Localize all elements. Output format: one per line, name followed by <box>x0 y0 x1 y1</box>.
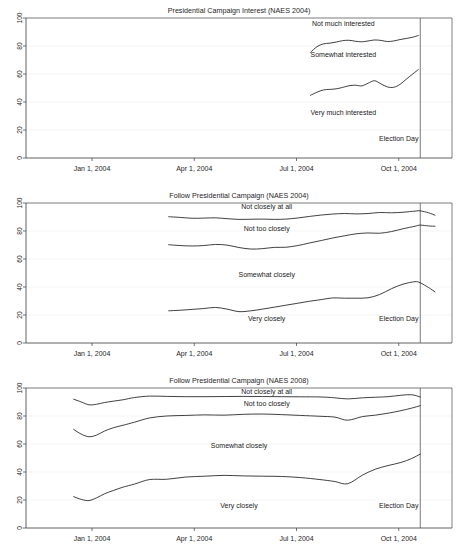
series-line-very-closely <box>74 454 421 501</box>
annotation-not-much-interested: Not much interested <box>312 20 375 27</box>
series-line-not-much-interested <box>311 36 419 53</box>
x-tick-label: Apr 1, 2004 <box>176 350 212 358</box>
annotation-not-too-closely: Not too closely <box>244 225 290 233</box>
y-tick-label: 20 <box>16 311 23 319</box>
chart-panel-3: Follow Presidential Campaign (NAES 2008)… <box>0 370 467 555</box>
annotation-not-too-closely: Not too closely <box>244 400 290 408</box>
annotation-not-closely-at-all: Not closely at all <box>241 203 292 211</box>
y-tick-label: 40 <box>16 283 23 291</box>
y-tick-label: 40 <box>16 468 23 476</box>
annotation-somewhat-closely: Somewhat closely <box>211 442 268 450</box>
y-tick-label: 20 <box>16 496 23 504</box>
annotation-somewhat-interested: Somewhat interested <box>310 51 376 58</box>
annotation-very-closely: Very closely <box>220 502 258 510</box>
panel-title: Presidential Campaign Interest (NAES 200… <box>168 6 311 15</box>
y-tick-label: 100 <box>16 382 23 393</box>
annotation-election-day: Election Day <box>379 135 419 143</box>
y-tick-label: 100 <box>16 197 23 208</box>
y-tick-label: 0 <box>16 341 23 345</box>
annotation-election-day: Election Day <box>379 502 419 510</box>
x-tick-label: Apr 1, 2004 <box>176 165 212 173</box>
x-tick-label: Jul 1, 2004 <box>279 350 313 357</box>
y-tick-label: 60 <box>16 440 23 448</box>
annotation-election-day: Election Day <box>379 315 419 323</box>
x-tick-label: Oct 1, 2004 <box>381 535 417 542</box>
y-tick-label: 80 <box>16 227 23 235</box>
x-tick-label: Apr 1, 2004 <box>176 535 212 543</box>
series-line-somewhat-interested <box>311 70 419 96</box>
panel-title: Follow Presidential Campaign (NAES 2004) <box>169 191 308 200</box>
chart-panel-1: Presidential Campaign Interest (NAES 200… <box>0 0 467 185</box>
annotation-very-much-interested: Very much interested <box>310 109 376 117</box>
x-tick-label: Oct 1, 2004 <box>381 350 417 357</box>
x-tick-label: Jan 1, 2004 <box>74 350 111 357</box>
x-tick-label: Jan 1, 2004 <box>74 165 111 172</box>
x-tick-label: Oct 1, 2004 <box>381 165 417 172</box>
annotation-very-closely: Very closely <box>248 315 286 323</box>
series-line-not-closely-at-all <box>169 211 435 220</box>
annotation-not-closely-at-all: Not closely at all <box>241 388 292 396</box>
panel-canvas: Presidential Campaign Interest (NAES 200… <box>0 0 467 185</box>
panel-canvas: Follow Presidential Campaign (NAES 2008)… <box>0 370 467 555</box>
y-tick-label: 60 <box>16 255 23 263</box>
y-tick-label: 60 <box>16 70 23 78</box>
series-line-not-too-closely <box>74 406 421 437</box>
y-tick-label: 80 <box>16 412 23 420</box>
series-line-not-too-closely <box>169 225 435 249</box>
x-tick-label: Jan 1, 2004 <box>74 535 111 542</box>
multi-panel-figure: Presidential Campaign Interest (NAES 200… <box>0 0 467 556</box>
y-tick-label: 100 <box>16 12 23 23</box>
panel-canvas: Follow Presidential Campaign (NAES 2004)… <box>0 185 467 370</box>
panel-title: Follow Presidential Campaign (NAES 2008) <box>169 376 308 385</box>
y-tick-label: 80 <box>16 42 23 50</box>
chart-panel-2: Follow Presidential Campaign (NAES 2004)… <box>0 185 467 370</box>
annotation-somewhat-closely: Somewhat closely <box>238 271 295 279</box>
y-tick-label: 40 <box>16 98 23 106</box>
y-tick-label: 20 <box>16 126 23 134</box>
y-tick-label: 0 <box>16 526 23 530</box>
y-tick-label: 0 <box>16 156 23 160</box>
x-tick-label: Jul 1, 2004 <box>279 165 313 172</box>
series-line-very-closely <box>169 282 435 312</box>
x-tick-label: Jul 1, 2004 <box>279 535 313 542</box>
